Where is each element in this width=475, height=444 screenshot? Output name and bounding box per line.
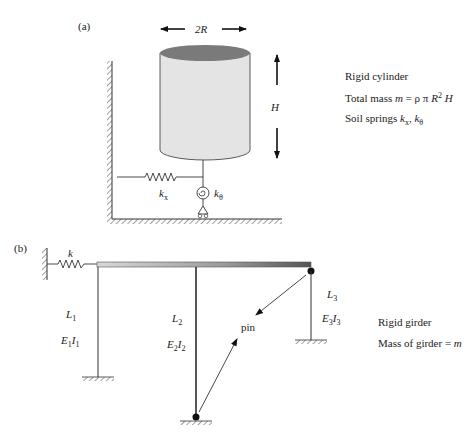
column-3-length: L3 (326, 288, 337, 303)
rigid-girder (97, 262, 311, 267)
column-1-stiffness: E1I1 (60, 334, 79, 349)
legend-b-line2: Mass of girder = m (378, 337, 462, 349)
column-3-base-hatch (295, 340, 327, 344)
panel-label-a: (a) (78, 20, 91, 33)
column-2-stiffness: E2I2 (166, 338, 185, 353)
column-2-pin-icon (193, 414, 200, 421)
cylinder-body (160, 53, 250, 160)
cylinder-top (160, 45, 250, 61)
legend-b-line1: Rigid girder (378, 316, 432, 328)
pin-label: pin (241, 321, 256, 333)
column-3-stiffness: E3I3 (321, 312, 340, 327)
spring-theta-label: kθ (214, 187, 223, 202)
column-1-length: L1 (65, 308, 76, 323)
legend-a-line3: Soil springs kx, kθ (345, 112, 423, 127)
diameter-label: 2R (195, 23, 208, 35)
figure-b: (b) k L1 E1I1 L2 E2I2 L3 E3I3 pin (14, 242, 462, 425)
pin-arrow-top (256, 275, 306, 315)
girder-spring (47, 260, 97, 268)
wall-b-hatch (42, 248, 47, 280)
pin-support-icon (198, 206, 208, 214)
column-2-base-hatch (180, 421, 212, 425)
spring-k-label: k (68, 247, 74, 259)
spring-x-label: kx (159, 187, 168, 202)
legend-a-line2: Total mass m = ρ π R2 H (345, 91, 454, 104)
pin-arrow-bottom (199, 339, 237, 412)
structural-diagram: (a) 2R H kx kθ Rigid cylinder Tota (0, 0, 475, 444)
rotational-spring-coil (199, 191, 205, 196)
legend-a-line1: Rigid cylinder (345, 70, 409, 82)
panel-label-b: (b) (14, 242, 27, 255)
roller-left (198, 214, 202, 218)
wall-hatch (107, 61, 112, 219)
column-1-base-hatch (82, 377, 114, 381)
column-2-length: L2 (171, 312, 182, 327)
figure-a: (a) 2R H kx kθ Rigid cylinder Tota (78, 20, 454, 224)
ground-hatch (107, 219, 282, 224)
roller-right (204, 214, 208, 218)
horizontal-spring (117, 173, 203, 181)
height-label: H (270, 101, 280, 113)
